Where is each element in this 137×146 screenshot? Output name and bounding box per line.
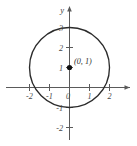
x-tick-label-pos1: 1 xyxy=(87,92,91,101)
y-axis-label: y xyxy=(59,5,64,15)
x-tick-label-pos2: 2 xyxy=(107,92,111,101)
y-axis-group xyxy=(67,6,72,140)
plot-canvas: -2 -1 0 1 2 3 2 1 -1 -2 y (0, 1) xyxy=(0,0,137,146)
y-axis-arrow-icon xyxy=(67,6,72,12)
coordinate-plane-figure: -2 -1 0 1 2 3 2 1 -1 -2 y (0, 1) xyxy=(0,0,137,146)
center-point-label: (0, 1) xyxy=(74,57,92,66)
x-axis-group xyxy=(6,85,130,90)
x-tick-label-neg1: -1 xyxy=(46,92,53,101)
y-tick-label-pos1: 1 xyxy=(59,64,63,73)
x-tick-label-zero: 0 xyxy=(66,92,70,101)
y-tick-label-pos3: 3 xyxy=(58,24,63,33)
y-tick-label-neg1: -1 xyxy=(56,104,63,113)
center-point-marker xyxy=(67,65,72,70)
y-tick-label-pos2: 2 xyxy=(59,44,63,53)
x-tick-label-neg2: -2 xyxy=(26,92,33,101)
x-axis-arrow-icon xyxy=(125,85,131,90)
y-tick-label-neg2: -2 xyxy=(56,124,63,133)
